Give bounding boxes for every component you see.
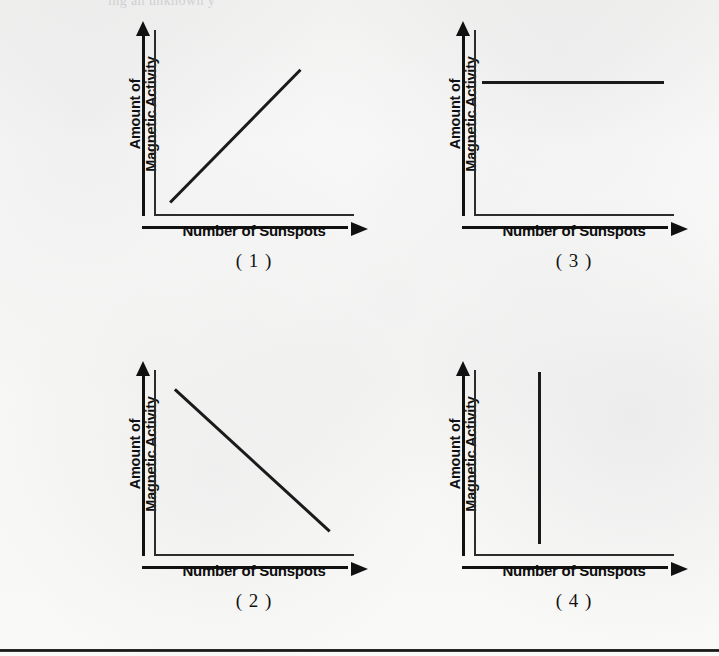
choice-number[interactable]: ( 2 ): [132, 590, 376, 612]
plot-frame-vertical: [154, 370, 156, 556]
graph-choice-2[interactable]: Amount of Magnetic Activity Number of Su…: [92, 362, 392, 656]
data-line-increasing: [169, 69, 301, 203]
plot-frame-vertical: [154, 30, 156, 216]
y-axis-arrowhead-icon: [456, 21, 470, 36]
x-axis-label: Number of Sunspots: [132, 562, 376, 579]
page-divider-rule: [0, 649, 719, 652]
x-axis-label: Number of Sunspots: [132, 222, 376, 239]
plot-frame-horizontal: [474, 214, 674, 216]
y-axis-label-line1: Amount of: [127, 359, 143, 549]
graph-choice-4[interactable]: Amount of Magnetic Activity Number of Su…: [412, 362, 712, 656]
y-axis-line: [462, 372, 465, 556]
plot-area: [474, 370, 674, 556]
plot-area: [154, 30, 354, 216]
y-axis-label-line1: Amount of: [447, 359, 463, 549]
plot-frame-horizontal: [474, 554, 674, 556]
choice-number[interactable]: ( 1 ): [132, 250, 376, 272]
top-clipped-text: ing an unknown y: [108, 0, 628, 8]
graph-choice-3[interactable]: Amount of Magnetic Activity Number of Su…: [412, 22, 712, 322]
y-axis-arrowhead-icon: [136, 21, 150, 36]
y-axis-label-line1: Amount of: [447, 19, 463, 209]
y-axis-label-line1: Amount of: [127, 19, 143, 209]
plot-frame-vertical: [474, 30, 476, 216]
data-line-decreasing: [174, 388, 331, 532]
y-axis-line: [142, 372, 145, 556]
y-axis-arrowhead-icon: [136, 361, 150, 376]
plot-frame-vertical: [474, 370, 476, 556]
y-axis-arrowhead-icon: [456, 361, 470, 376]
choice-number[interactable]: ( 4 ): [452, 590, 696, 612]
data-line-constant: [482, 81, 664, 84]
x-axis-label: Number of Sunspots: [452, 562, 696, 579]
plot-frame-horizontal: [154, 214, 354, 216]
data-line-vertical: [538, 372, 541, 544]
plot-area: [474, 30, 674, 216]
plot-frame-horizontal: [154, 554, 354, 556]
plot-area: [154, 370, 354, 556]
graph-choice-1[interactable]: Amount of Magnetic Activity Number of Su…: [92, 22, 392, 322]
y-axis-line: [142, 32, 145, 216]
choice-number[interactable]: ( 3 ): [452, 250, 696, 272]
x-axis-label: Number of Sunspots: [452, 222, 696, 239]
y-axis-line: [462, 32, 465, 216]
